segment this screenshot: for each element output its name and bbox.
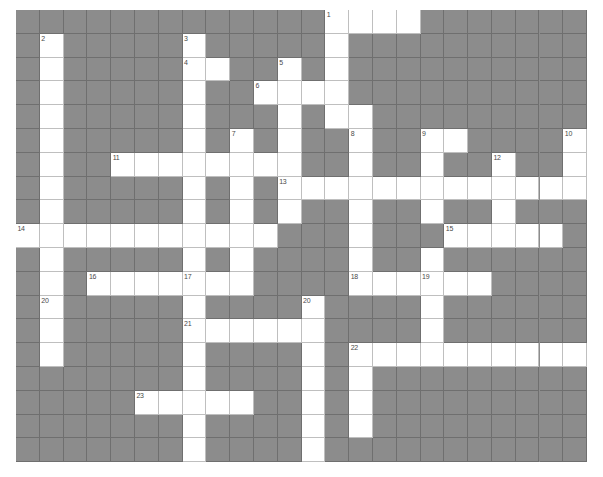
crossword-cell-open[interactable]	[349, 248, 373, 272]
crossword-cell-open[interactable]	[444, 343, 468, 367]
crossword-cell-open[interactable]: 16	[87, 272, 111, 296]
crossword-cell-open[interactable]	[444, 272, 468, 296]
crossword-cell-open[interactable]	[183, 391, 207, 415]
crossword-cell-open[interactable]	[183, 343, 207, 367]
crossword-cell-open[interactable]	[183, 177, 207, 201]
crossword-cell-open[interactable]	[111, 224, 135, 248]
crossword-grid[interactable]: 123456789101112131415161718192020212223	[16, 10, 587, 462]
crossword-cell-open[interactable]	[40, 224, 64, 248]
crossword-cell-open[interactable]	[183, 296, 207, 320]
crossword-cell-open[interactable]: 5	[278, 58, 302, 82]
crossword-cell-open[interactable]	[278, 105, 302, 129]
crossword-cell-open[interactable]	[254, 319, 278, 343]
crossword-cell-open[interactable]	[302, 391, 326, 415]
crossword-cell-open[interactable]	[373, 10, 397, 34]
crossword-cell-open[interactable]: 3	[183, 34, 207, 58]
crossword-cell-open[interactable]	[159, 224, 183, 248]
crossword-cell-open[interactable]	[468, 343, 492, 367]
crossword-cell-open[interactable]	[230, 272, 254, 296]
crossword-cell-open[interactable]	[540, 224, 564, 248]
crossword-cell-open[interactable]: 18	[349, 272, 373, 296]
crossword-cell-open[interactable]	[349, 415, 373, 439]
crossword-cell-open[interactable]: 9	[421, 129, 445, 153]
crossword-cell-open[interactable]	[206, 319, 230, 343]
crossword-cell-open[interactable]	[492, 177, 516, 201]
crossword-cell-open[interactable]	[40, 129, 64, 153]
crossword-cell-open[interactable]: 19	[421, 272, 445, 296]
crossword-cell-open[interactable]	[183, 438, 207, 462]
crossword-cell-open[interactable]	[278, 319, 302, 343]
crossword-cell-open[interactable]	[135, 272, 159, 296]
crossword-cell-open[interactable]	[349, 367, 373, 391]
crossword-cell-open[interactable]	[230, 319, 254, 343]
crossword-cell-open[interactable]	[278, 129, 302, 153]
crossword-cell-open[interactable]	[325, 34, 349, 58]
crossword-cell-open[interactable]: 15	[444, 224, 468, 248]
crossword-cell-open[interactable]	[302, 319, 326, 343]
crossword-cell-open[interactable]: 20	[40, 296, 64, 320]
crossword-cell-open[interactable]	[111, 272, 135, 296]
crossword-cell-open[interactable]	[183, 248, 207, 272]
crossword-cell-open[interactable]: 14	[16, 224, 40, 248]
crossword-cell-open[interactable]	[421, 177, 445, 201]
crossword-cell-open[interactable]	[373, 177, 397, 201]
crossword-cell-open[interactable]	[421, 248, 445, 272]
crossword-cell-open[interactable]	[183, 367, 207, 391]
crossword-cell-open[interactable]	[230, 391, 254, 415]
crossword-cell-open[interactable]	[397, 177, 421, 201]
crossword-cell-open[interactable]	[230, 248, 254, 272]
crossword-cell-open[interactable]: 2	[40, 34, 64, 58]
crossword-cell-open[interactable]	[421, 296, 445, 320]
crossword-cell-open[interactable]	[397, 10, 421, 34]
crossword-cell-open[interactable]	[325, 81, 349, 105]
crossword-cell-open[interactable]	[492, 343, 516, 367]
crossword-cell-open[interactable]	[159, 391, 183, 415]
crossword-cell-open[interactable]	[516, 177, 540, 201]
crossword-cell-open[interactable]: 11	[111, 153, 135, 177]
crossword-cell-open[interactable]	[159, 272, 183, 296]
crossword-cell-open[interactable]	[40, 319, 64, 343]
crossword-cell-open[interactable]	[349, 224, 373, 248]
crossword-cell-open[interactable]	[349, 177, 373, 201]
crossword-cell-open[interactable]: 23	[135, 391, 159, 415]
crossword-cell-open[interactable]	[492, 200, 516, 224]
crossword-cell-open[interactable]	[516, 224, 540, 248]
crossword-cell-open[interactable]: 8	[349, 129, 373, 153]
crossword-cell-open[interactable]	[325, 177, 349, 201]
crossword-cell-open[interactable]: 20	[302, 296, 326, 320]
crossword-cell-open[interactable]	[40, 248, 64, 272]
crossword-cell-open[interactable]	[349, 200, 373, 224]
crossword-cell-open[interactable]	[183, 81, 207, 105]
crossword-cell-open[interactable]	[40, 58, 64, 82]
crossword-cell-open[interactable]	[302, 81, 326, 105]
crossword-cell-open[interactable]	[40, 153, 64, 177]
crossword-cell-open[interactable]: 6	[254, 81, 278, 105]
crossword-cell-open[interactable]: 4	[183, 58, 207, 82]
crossword-cell-open[interactable]	[325, 105, 349, 129]
crossword-cell-open[interactable]	[230, 224, 254, 248]
crossword-cell-open[interactable]	[444, 177, 468, 201]
crossword-cell-open[interactable]	[468, 272, 492, 296]
crossword-cell-open[interactable]	[278, 153, 302, 177]
crossword-cell-open[interactable]	[468, 177, 492, 201]
crossword-cell-open[interactable]	[397, 343, 421, 367]
crossword-cell-open[interactable]	[183, 153, 207, 177]
crossword-cell-open[interactable]	[373, 343, 397, 367]
crossword-cell-open[interactable]	[135, 153, 159, 177]
crossword-cell-open[interactable]	[563, 153, 587, 177]
crossword-cell-open[interactable]: 17	[183, 272, 207, 296]
crossword-cell-open[interactable]	[302, 367, 326, 391]
crossword-cell-open[interactable]	[183, 200, 207, 224]
crossword-cell-open[interactable]	[516, 343, 540, 367]
crossword-cell-open[interactable]	[468, 224, 492, 248]
crossword-cell-open[interactable]: 7	[230, 129, 254, 153]
crossword-cell-open[interactable]	[206, 224, 230, 248]
crossword-cell-open[interactable]: 10	[563, 129, 587, 153]
crossword-cell-open[interactable]: 12	[492, 153, 516, 177]
crossword-cell-open[interactable]	[349, 10, 373, 34]
crossword-cell-open[interactable]	[540, 177, 564, 201]
crossword-cell-open[interactable]	[40, 105, 64, 129]
crossword-cell-open[interactable]: 21	[183, 319, 207, 343]
crossword-cell-open[interactable]	[206, 391, 230, 415]
crossword-cell-open[interactable]	[183, 105, 207, 129]
